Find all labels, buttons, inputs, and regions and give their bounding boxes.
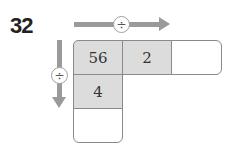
divide-operator-horizontal: ÷ xyxy=(113,16,130,33)
answer-cell-top-right[interactable] xyxy=(171,40,222,75)
cell-middle-left: 4 xyxy=(73,74,123,109)
problem-number: 32 xyxy=(10,13,32,39)
arrow-down-icon xyxy=(52,97,66,108)
divide-operator-vertical: ÷ xyxy=(51,67,68,84)
cell-top-left: 56 xyxy=(73,40,123,75)
arrow-right-icon xyxy=(159,17,170,31)
cell-top-middle: 2 xyxy=(122,40,172,75)
answer-cell-bottom-left[interactable] xyxy=(73,108,123,143)
